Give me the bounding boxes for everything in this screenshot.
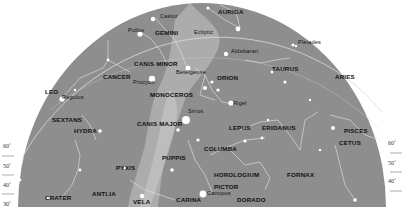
constellation-label: CRATER bbox=[45, 194, 72, 201]
constellation-label: PUPPIS bbox=[162, 154, 186, 161]
star-label: Regulus bbox=[62, 94, 84, 101]
constellation-label: TAURUS bbox=[272, 65, 299, 72]
constellation-label: LEO bbox=[45, 88, 58, 95]
constellation-label: DORADO bbox=[237, 196, 266, 203]
altitude-tick-label: 40˚ bbox=[3, 182, 11, 188]
constellation-label: HOROLOGIUM bbox=[214, 171, 259, 178]
star-label: Canopus bbox=[207, 190, 231, 197]
star-label: Procyon bbox=[133, 79, 155, 86]
star-label: Castor bbox=[160, 13, 178, 20]
star-label: Rigel bbox=[233, 100, 247, 107]
constellation-label: VELA bbox=[133, 198, 150, 205]
constellation-label: ERIDANUS bbox=[262, 124, 296, 131]
star-label: Ecliptic bbox=[194, 29, 213, 36]
star-label: Betelgeuse bbox=[176, 69, 206, 76]
constellation-label: CETUS bbox=[339, 139, 361, 146]
constellation-label: ANTLIA bbox=[92, 190, 116, 197]
constellation-label: GEMINI bbox=[155, 29, 178, 36]
constellation-label: LEPUS bbox=[229, 124, 251, 131]
star-label: Pleiades bbox=[298, 39, 321, 46]
constellation-label: AURIGA bbox=[218, 8, 244, 15]
altitude-tick-label: 40˚ bbox=[388, 178, 396, 184]
constellation-label: PYXIS bbox=[116, 164, 135, 171]
altitude-tick-label: 30˚ bbox=[3, 201, 11, 207]
constellation-label: HYDRA bbox=[74, 127, 97, 134]
constellation-label: CANCER bbox=[103, 73, 131, 80]
constellation-label: ORION bbox=[217, 74, 238, 81]
constellation-label: FORNAX bbox=[287, 171, 314, 178]
constellation-label: COLUMBA bbox=[204, 145, 237, 152]
star-label: Pollux bbox=[128, 27, 144, 34]
constellation-label: PISCES bbox=[344, 127, 368, 134]
altitude-tick-label: 50˚ bbox=[388, 160, 396, 166]
constellation-label: PICTOR bbox=[214, 183, 238, 190]
star-label: Aldebaran bbox=[231, 48, 258, 55]
constellation-label: CARINA bbox=[176, 196, 201, 203]
constellation-label: CANIS MAJOR bbox=[137, 120, 183, 127]
altitude-tick-label: 60˚ bbox=[388, 140, 396, 146]
constellation-label: CANIS MINOR bbox=[134, 60, 178, 67]
horizon-strip bbox=[0, 207, 404, 214]
constellation-label: MONOCEROS bbox=[150, 91, 193, 98]
star-label: Sirius bbox=[188, 108, 203, 115]
constellation-label: SEXTANS bbox=[52, 116, 82, 123]
altitude-tick-label: 60˚ bbox=[3, 143, 11, 149]
altitude-tick-label: 50˚ bbox=[3, 163, 11, 169]
constellation-label: ARIES bbox=[335, 73, 355, 80]
